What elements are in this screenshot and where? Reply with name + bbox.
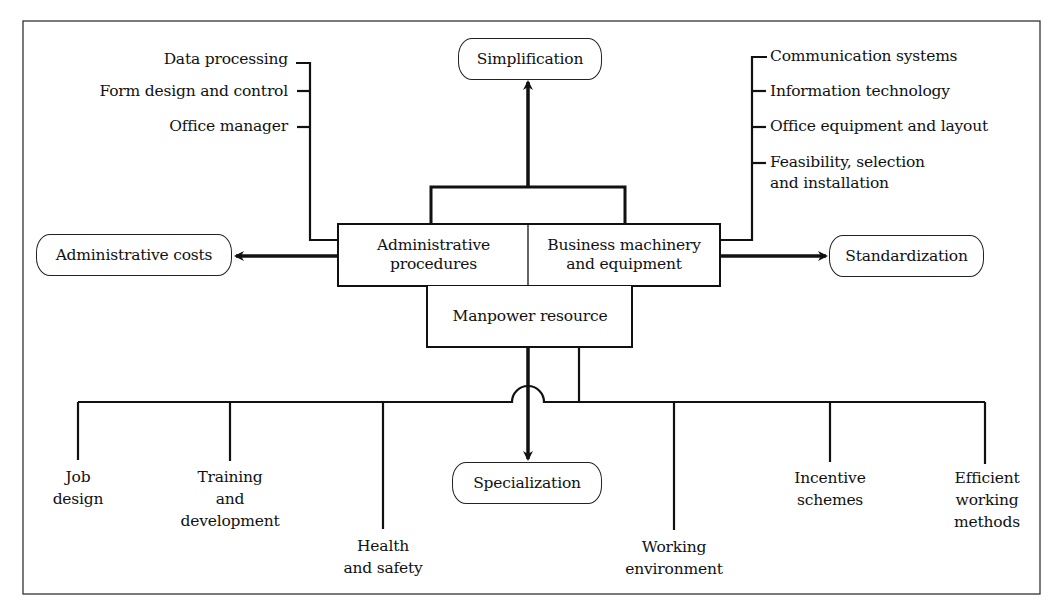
factor-line: Incentive [780, 467, 880, 489]
machinery-factor-installation: and installation [770, 174, 889, 193]
admin-factor-data-processing: Data processing [60, 50, 288, 69]
admin-factors-bracket [296, 63, 338, 240]
manpower-factor-training: Training and development [165, 466, 295, 532]
admin-procedures-line2: procedures [377, 255, 490, 274]
manpower-label: Manpower resource [453, 307, 608, 326]
factor-line: working [940, 489, 1034, 511]
outcome-simplification: Simplification [458, 38, 602, 80]
box-manpower-resource: Manpower resource [429, 287, 631, 345]
box-administrative-procedures: Administrative procedures [340, 226, 527, 284]
outcome-specialization: Specialization [452, 462, 602, 504]
business-machinery-line2: and equipment [547, 255, 701, 274]
admin-procedures-line1: Administrative [377, 236, 490, 255]
machinery-factor-communication: Communication systems [770, 47, 957, 66]
factor-line: environment [614, 558, 734, 580]
factor-line: Working [614, 536, 734, 558]
business-machinery-line1: Business machinery [547, 236, 701, 255]
factor-line: schemes [780, 489, 880, 511]
factor-line: Training [165, 466, 295, 488]
admin-factor-office-manager: Office manager [60, 117, 288, 136]
factor-line: and [165, 488, 295, 510]
manpower-factor-job-design: Job design [28, 466, 128, 510]
factor-line: Health [328, 535, 438, 557]
factor-line: methods [940, 511, 1034, 533]
factor-line: design [28, 488, 128, 510]
manpower-factor-incentive-schemes: Incentive schemes [780, 467, 880, 511]
machinery-factor-office-equipment: Office equipment and layout [770, 117, 988, 136]
manpower-factor-health-safety: Health and safety [328, 535, 438, 579]
upper-frame [431, 187, 625, 224]
admin-factor-form-design: Form design and control [40, 82, 288, 101]
factor-line: and safety [328, 557, 438, 579]
factor-line: Job [28, 466, 128, 488]
outcome-standardization: Standardization [829, 235, 984, 277]
outcome-administrative-costs: Administrative costs [36, 234, 232, 276]
machinery-factors-bracket [720, 57, 767, 240]
diagram-canvas: Data processing Form design and control … [0, 0, 1049, 608]
manpower-factor-efficient-methods: Efficient working methods [940, 467, 1034, 533]
factor-line: development [165, 510, 295, 532]
machinery-factor-feasibility: Feasibility, selection [770, 153, 925, 172]
manpower-factor-working-environment: Working environment [614, 536, 734, 580]
machinery-factor-it: Information technology [770, 82, 950, 101]
box-business-machinery: Business machinery and equipment [529, 226, 719, 284]
factor-line: Efficient [940, 467, 1034, 489]
